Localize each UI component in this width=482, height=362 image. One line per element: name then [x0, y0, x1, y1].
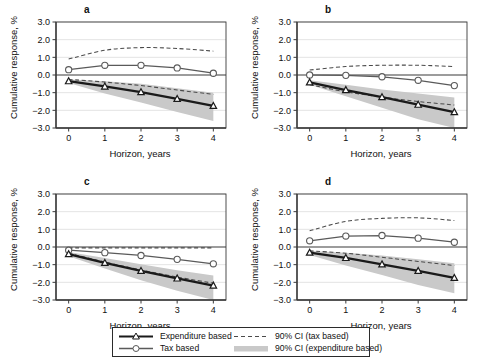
y-tick-label: 2.0	[37, 35, 50, 45]
x-tick-label: 4	[452, 133, 457, 143]
tax-based-marker	[343, 72, 349, 78]
x-tick-label: 0	[307, 305, 312, 315]
expenditure-based-marker	[306, 79, 312, 85]
y-tick-label: −2.0	[32, 106, 50, 116]
x-tick-label: 0	[66, 305, 71, 315]
y-tick-label: 0.0	[278, 70, 291, 80]
tax-based-marker	[379, 232, 385, 238]
tax-based-marker	[138, 62, 144, 68]
ci-tax-upper-line	[310, 218, 455, 231]
y-tick-label: 0.0	[37, 70, 50, 80]
x-tick-label: 1	[343, 133, 348, 143]
legend-sample-ci-expenditure-band	[233, 343, 269, 354]
legend-label-tax-based: Tax based	[160, 343, 199, 354]
panel-d-plot: 3.02.01.00.0−1.0−2.0−3.001234	[241, 172, 482, 344]
tax-based-marker	[307, 238, 313, 244]
legend-label-ci-tax: 90% CI (tax based)	[275, 331, 349, 342]
y-tick-label: 1.0	[278, 53, 291, 63]
tax-based-marker	[66, 67, 72, 73]
x-tick-label: 4	[452, 305, 457, 315]
y-tick-label: 0.0	[278, 242, 291, 252]
panel-c: c Cumulative response, % Horizon, years …	[0, 172, 241, 344]
y-tick-label: −1.0	[32, 260, 50, 270]
tax-based-marker	[210, 261, 216, 267]
x-tick-label: 1	[102, 305, 107, 315]
y-tick-label: −3.0	[32, 295, 50, 305]
y-tick-label: 2.0	[278, 207, 291, 217]
x-tick-label: 2	[138, 305, 143, 315]
expenditure-based-marker	[306, 249, 312, 255]
x-tick-label: 0	[66, 133, 71, 143]
y-tick-label: −3.0	[273, 123, 291, 133]
y-tick-label: −2.0	[273, 278, 291, 288]
y-tick-label: 0.0	[37, 242, 50, 252]
y-tick-label: −1.0	[273, 260, 291, 270]
legend-sample-tax-line	[118, 343, 154, 354]
y-tick-label: −3.0	[273, 295, 291, 305]
tax-based-marker	[415, 77, 421, 83]
y-tick-label: 3.0	[37, 189, 50, 199]
x-tick-label: 0	[307, 133, 312, 143]
y-tick-label: 1.0	[278, 225, 291, 235]
panel-a: a Cumulative response, % Horizon, years …	[0, 0, 241, 172]
panel-b-plot: 3.02.01.00.0−1.0−2.0−3.001234	[241, 0, 482, 172]
x-tick-label: 1	[102, 133, 107, 143]
legend-label-expenditure-based: Expenditure based	[160, 331, 232, 342]
x-tick-label: 2	[379, 133, 384, 143]
y-tick-label: 2.0	[37, 207, 50, 217]
tax-based-marker	[343, 233, 349, 239]
figure-container: a Cumulative response, % Horizon, years …	[0, 0, 482, 362]
x-tick-label: 4	[211, 305, 216, 315]
legend-entry-ci-expenditure: 90% CI (expenditure based)	[233, 343, 382, 354]
ci-tax-upper-line	[310, 65, 455, 70]
y-tick-label: −2.0	[273, 106, 291, 116]
tax-based-marker	[451, 239, 457, 245]
y-tick-label: 3.0	[37, 17, 50, 27]
panel-b: b Cumulative response, % Horizon, years …	[241, 0, 482, 172]
figure-legend: Expenditure based Tax based 90% CI (tax …	[112, 327, 370, 357]
tax-based-marker	[174, 256, 180, 262]
tax-based-marker	[415, 235, 421, 241]
legend-sample-ci-tax-dashed	[233, 331, 269, 342]
panel-a-plot: 3.02.01.00.0−1.0−2.0−3.001234	[0, 0, 241, 172]
legend-label-ci-expenditure: 90% CI (expenditure based)	[275, 343, 382, 354]
y-tick-label: 2.0	[278, 35, 291, 45]
y-tick-label: 3.0	[278, 17, 291, 27]
tax-based-marker	[138, 252, 144, 258]
y-tick-label: −3.0	[32, 123, 50, 133]
y-tick-label: −2.0	[32, 278, 50, 288]
legend-entry-ci-tax: 90% CI (tax based)	[233, 331, 349, 342]
x-tick-label: 2	[379, 305, 384, 315]
x-tick-label: 1	[343, 305, 348, 315]
x-tick-label: 2	[138, 133, 143, 143]
y-tick-label: 1.0	[37, 225, 50, 235]
y-tick-label: −1.0	[273, 88, 291, 98]
tax-based-marker	[210, 70, 216, 76]
legend-entry-expenditure-based: Expenditure based	[118, 331, 232, 342]
expenditure-based-marker	[65, 78, 71, 84]
x-tick-label: 3	[416, 133, 421, 143]
tax-based-marker	[174, 65, 180, 71]
x-tick-label: 4	[211, 133, 216, 143]
tax-based-marker	[102, 250, 108, 256]
tax-based-marker	[379, 74, 385, 80]
tax-based-marker	[451, 83, 457, 89]
y-tick-label: 3.0	[278, 189, 291, 199]
x-tick-label: 3	[175, 305, 180, 315]
legend-sample-expenditure-line	[118, 331, 154, 342]
legend-entry-tax-based: Tax based	[118, 343, 199, 354]
panel-d: d Cumulative response, % Horizon, years …	[241, 172, 482, 344]
y-tick-label: 1.0	[37, 53, 50, 63]
panel-c-plot: 3.02.01.00.0−1.0−2.0−3.001234	[0, 172, 241, 344]
y-tick-label: −1.0	[32, 88, 50, 98]
x-tick-label: 3	[175, 133, 180, 143]
tax-based-marker	[307, 72, 313, 78]
tax-based-marker	[102, 62, 108, 68]
x-tick-label: 3	[416, 305, 421, 315]
